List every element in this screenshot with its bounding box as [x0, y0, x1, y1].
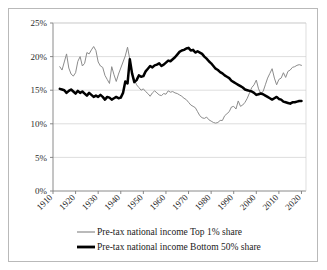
plot-axes — [50, 23, 306, 194]
x-axis-label-1920: 1920 — [57, 192, 77, 212]
y-axis-label-5pct: 5% — [35, 153, 48, 163]
chart-legend: Pre-tax national income Top 1% sharePre-… — [77, 227, 261, 252]
x-axis-label-1980: 1980 — [193, 192, 213, 212]
y-axis-label-25pct: 25% — [31, 18, 48, 28]
series-line-top-1-percent — [60, 47, 302, 124]
chart-figure-container: 0%5%10%15%20%25% 19101920193019401950196… — [8, 8, 318, 262]
y-axis-label-20pct: 20% — [31, 52, 48, 62]
x-axis-tick-labels: 1910192019301940195019601970198019902000… — [35, 192, 304, 212]
x-axis-label-1950: 1950 — [125, 192, 145, 212]
income-share-line-chart: 0%5%10%15%20%25% 19101920193019401950196… — [9, 9, 317, 261]
x-axis-label-1970: 1970 — [170, 192, 190, 212]
data-series-group — [60, 47, 302, 124]
x-axis-label-1930: 1930 — [80, 192, 100, 212]
plot-gridlines — [53, 23, 306, 157]
x-axis-label-1960: 1960 — [148, 192, 168, 212]
y-axis-label-15pct: 15% — [31, 85, 48, 95]
x-axis-label-1940: 1940 — [102, 192, 122, 212]
x-axis-label-1990: 1990 — [215, 192, 235, 212]
legend-label-top-1-percent: Pre-tax national income Top 1% share — [97, 227, 242, 237]
y-axis-tick-labels: 0%5%10%15%20%25% — [31, 18, 48, 196]
x-axis-label-2020: 2020 — [283, 192, 303, 212]
x-axis-label-2000: 2000 — [238, 192, 258, 212]
legend-label-bottom-50-percent: Pre-tax national income Bottom 50% share — [97, 242, 261, 252]
x-axis-label-2010: 2010 — [261, 192, 281, 212]
y-axis-label-10pct: 10% — [31, 119, 48, 129]
